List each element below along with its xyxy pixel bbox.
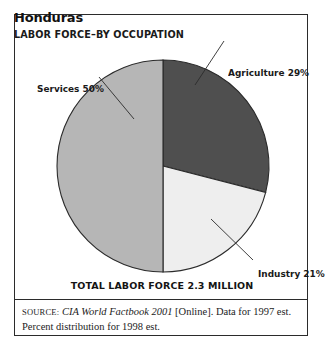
pie-chart-svg (15, 15, 307, 285)
source-work-title: CIA World Factbook 2001 (62, 306, 173, 317)
pie-label-agriculture: Agriculture 29% (228, 67, 309, 78)
source-label: SOURCE: (22, 307, 59, 317)
source-divider (15, 299, 307, 300)
total-labor-force-caption: TOTAL LABOR FORCE 2.3 MILLION (0, 280, 324, 291)
pie-chart: Services 50% Agriculture 29% Industry 21… (15, 15, 307, 285)
source-note: SOURCE: CIA World Factbook 2001 [Online]… (22, 305, 302, 333)
pie-label-services: Services 50% (37, 83, 104, 94)
pie-label-industry: Industry 21% (258, 268, 325, 279)
